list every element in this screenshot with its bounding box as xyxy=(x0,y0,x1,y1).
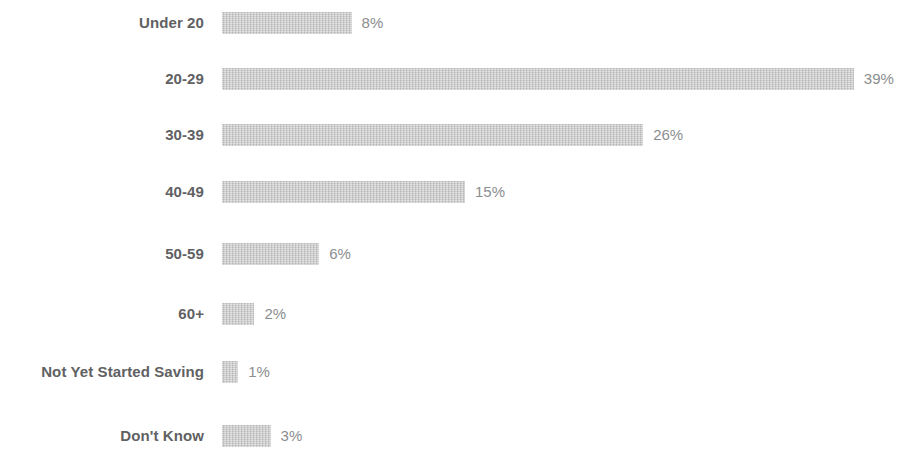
bar-segment xyxy=(222,181,465,203)
bar-row: 30-39 26% xyxy=(0,124,906,146)
bar-segment xyxy=(222,243,319,265)
bar-row: Under 20 8% xyxy=(0,12,906,34)
category-label: Don't Know xyxy=(0,425,204,447)
category-label: Not Yet Started Saving xyxy=(0,361,204,383)
bar-value-label: 1% xyxy=(248,361,270,383)
category-label: 60+ xyxy=(0,303,204,325)
bar-value-label: 8% xyxy=(362,12,384,34)
bar-row: Don't Know 3% xyxy=(0,425,906,447)
bar-value-label: 39% xyxy=(864,68,894,90)
category-label: 40-49 xyxy=(0,181,204,203)
category-label: Under 20 xyxy=(0,12,204,34)
bar-segment xyxy=(222,124,643,146)
bar-segment xyxy=(222,12,352,34)
bar-value-label: 6% xyxy=(329,243,351,265)
bar-row: Not Yet Started Saving 1% xyxy=(0,361,906,383)
bar-value-label: 2% xyxy=(264,303,286,325)
bar-segment xyxy=(222,361,238,383)
category-label: 20-29 xyxy=(0,68,204,90)
category-label: 30-39 xyxy=(0,124,204,146)
category-label: 50-59 xyxy=(0,243,204,265)
bar-row: 60+ 2% xyxy=(0,303,906,325)
bar-value-label: 15% xyxy=(475,181,505,203)
bar-segment xyxy=(222,425,271,447)
bar-row: 40-49 15% xyxy=(0,181,906,203)
bar-row: 50-59 6% xyxy=(0,243,906,265)
bar-row: 20-29 39% xyxy=(0,68,906,90)
bar-chart: Under 20 8% 20-29 39% 30-39 26% 40-49 15… xyxy=(0,0,906,450)
bar-segment xyxy=(222,303,254,325)
bar-value-label: 26% xyxy=(653,124,683,146)
bar-value-label: 3% xyxy=(281,425,303,447)
bar-segment xyxy=(222,68,854,90)
